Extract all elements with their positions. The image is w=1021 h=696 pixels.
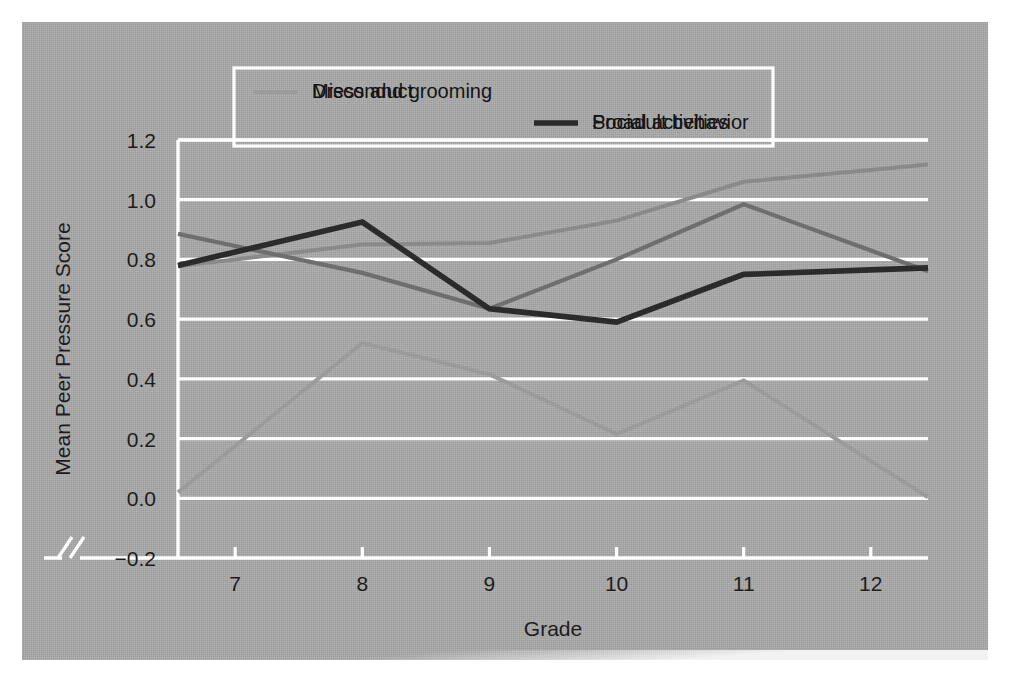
series-line-social-activities xyxy=(178,204,928,309)
series-line-misconduct xyxy=(178,343,928,497)
x-tick-label: 8 xyxy=(356,572,368,595)
y-tick-label: 0.6 xyxy=(127,308,156,331)
y-axis-label: Mean Peer Pressure Score xyxy=(51,222,74,475)
x-tick-label: 12 xyxy=(859,572,882,595)
series-line-proadult-behavior xyxy=(178,222,928,322)
x-axis-label: Grade xyxy=(524,617,582,640)
gridlines xyxy=(178,140,928,498)
x-tick-labels: 789101112 xyxy=(229,547,882,595)
legend-label: Misconduct xyxy=(312,80,414,102)
y-tick-label: 0.8 xyxy=(127,248,156,271)
y-tick-labels: −0.20.00.20.40.60.81.01.2 xyxy=(115,129,157,570)
series-line-dress-and-grooming xyxy=(178,165,928,267)
chart-legend: Dress and groomingSocial activitiesMisco… xyxy=(234,68,773,146)
plot-frame xyxy=(44,140,928,558)
y-tick-label: 0.4 xyxy=(127,368,157,391)
x-tick-label: 9 xyxy=(484,572,496,595)
x-tick-label: 11 xyxy=(733,572,755,595)
axis-break-icon xyxy=(58,537,84,558)
y-tick-label: −0.2 xyxy=(115,547,156,570)
y-tick-label: 0.0 xyxy=(127,487,156,510)
line-chart: 789101112 −0.20.00.20.40.60.81.01.2 Grad… xyxy=(22,22,988,660)
figure-panel: 789101112 −0.20.00.20.40.60.81.01.2 Grad… xyxy=(22,22,988,660)
y-tick-label: 1.0 xyxy=(127,189,156,212)
y-tick-label: 0.2 xyxy=(127,428,156,451)
y-tick-label: 1.2 xyxy=(127,129,156,152)
series-layer xyxy=(178,165,928,498)
x-tick-label: 10 xyxy=(605,572,628,595)
x-tick-label: 7 xyxy=(229,572,241,595)
legend-label: Proadult behavior xyxy=(592,111,749,133)
